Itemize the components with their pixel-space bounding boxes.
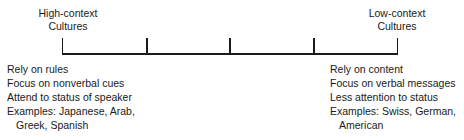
descriptor-item: Focus on verbal messages [330,76,456,90]
descriptor-item: Attend to status of speaker [7,90,135,104]
descriptor-list-low-context: Rely on content Focus on verbal messages… [330,62,456,132]
pole-label-low-context-line1: Low-context [356,7,438,20]
culture-context-continuum-figure: High-context Cultures Low-context Cultur… [0,0,464,140]
descriptor-item: Examples: Swiss, German, [330,104,456,118]
pole-label-high-context: High-context Cultures [27,7,109,33]
pole-label-low-context-line2: Cultures [356,20,438,33]
descriptor-item: Greek, Spanish [7,118,135,132]
descriptor-item: American [330,118,456,132]
descriptor-item: Examples: Japanese, Arab, [7,104,135,118]
descriptor-item: Focus on nonverbal cues [7,76,135,90]
descriptor-item: Rely on content [330,62,456,76]
descriptor-item: Rely on rules [7,62,135,76]
pole-label-high-context-line2: Cultures [27,20,109,33]
descriptor-list-high-context: Rely on rules Focus on nonverbal cues At… [7,62,135,132]
pole-label-high-context-line1: High-context [27,7,109,20]
descriptor-item: Less attention to status [330,90,456,104]
pole-label-low-context: Low-context Cultures [356,7,438,33]
